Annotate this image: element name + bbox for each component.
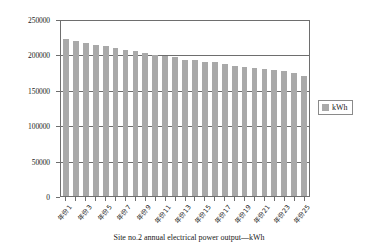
bar-chart: 050000100000150000200000250000 年份1年份2年份3… [0,0,378,251]
x-label-slot: 年份25 [299,201,309,231]
y-axis: 050000100000150000200000250000 [0,20,56,197]
bar[interactable] [142,53,148,197]
bar-slot [170,21,180,196]
bar-slot [121,21,131,196]
bar-slot [190,21,200,196]
x-label-slot: 年份23 [279,201,289,231]
x-axis-labels: 年份1年份2年份3年份4年份5年份6年份7年份8年份9年份10年份11年份12年… [61,201,309,231]
bar[interactable] [301,76,307,196]
x-label-slot: 年份19 [240,201,250,231]
x-label-slot: 年份11 [160,201,170,231]
x-label-slot: 年份21 [259,201,269,231]
y-tick-label: 0 [46,193,50,202]
bar[interactable] [83,43,89,196]
bar-slot [269,21,279,196]
x-label-slot: 年份15 [200,201,210,231]
bar[interactable] [93,45,99,196]
chart-legend[interactable]: kWh [318,100,353,115]
bar[interactable] [162,56,168,196]
bar-slot [240,21,250,196]
bar[interactable] [182,60,188,197]
bar-slot [101,21,111,196]
bar-slot [279,21,289,196]
bar[interactable] [172,57,178,196]
bar[interactable] [133,51,139,196]
bar-slot [71,21,81,196]
bar[interactable] [202,62,208,196]
bar[interactable] [212,62,218,196]
legend-label: kWh [332,103,348,112]
bar[interactable] [291,73,297,196]
bar-slot [200,21,210,196]
bar[interactable] [113,48,119,196]
bar[interactable] [281,71,287,196]
bar[interactable] [242,67,248,196]
bar[interactable] [252,68,258,196]
x-axis-title: Site no.2 annual electrical power output… [0,233,378,242]
bar[interactable] [73,41,79,196]
bar[interactable] [192,60,198,196]
bar[interactable] [103,46,109,196]
x-label-slot: 年份13 [180,201,190,231]
bar[interactable] [63,39,69,196]
bar-slot [210,21,220,196]
bar-slot [130,21,140,196]
bar-series-kwh [61,21,309,196]
x-label-slot: 年份5 [101,201,111,231]
bar-slot [259,21,269,196]
bar[interactable] [232,66,238,196]
y-tick-label: 200000 [28,51,50,60]
bar-slot [91,21,101,196]
bar-slot [230,21,240,196]
x-label-slot: 年份9 [140,201,150,231]
bar-slot [81,21,91,196]
bar-slot [299,21,309,196]
y-tick-label: 150000 [28,86,50,95]
y-tick-label: 250000 [28,16,50,25]
x-label-slot: 年份3 [81,201,91,231]
bar-slot [140,21,150,196]
legend-swatch-icon [322,104,329,111]
bar-slot [150,21,160,196]
bar-slot [160,21,170,196]
bar-slot [180,21,190,196]
x-label-slot: 年份1 [61,201,71,231]
y-tick-label: 50000 [32,157,50,166]
y-tick-label: 100000 [28,122,50,131]
bar-slot [61,21,71,196]
bar[interactable] [222,64,228,196]
x-label-slot: 年份17 [220,201,230,231]
bar-slot [289,21,299,196]
bar[interactable] [152,55,158,196]
bar-slot [250,21,260,196]
bar[interactable] [262,69,268,196]
bar-slot [111,21,121,196]
x-label-slot: 年份7 [121,201,131,231]
bar[interactable] [123,50,129,196]
bar-slot [220,21,230,196]
y-tick-mark [56,197,60,198]
bar[interactable] [271,70,277,196]
